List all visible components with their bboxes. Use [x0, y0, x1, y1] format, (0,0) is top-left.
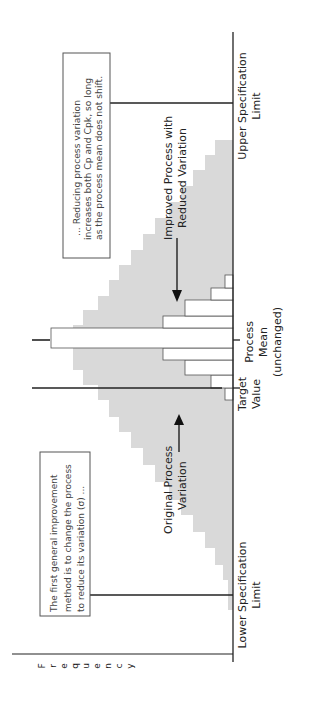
lower-note-line-1: The first general improvement	[49, 474, 59, 613]
histogram-bar	[215, 140, 233, 155]
frequency-letter: F	[37, 663, 47, 668]
frequency-letter: u	[81, 663, 91, 669]
histogram-bar	[215, 548, 233, 565]
frequency-letter: y	[125, 663, 135, 669]
frequency-letter: e	[92, 663, 102, 669]
lsl-label-line-1: Lower Specification	[236, 541, 249, 648]
lower-note-line-2: method is to change the process	[63, 464, 73, 612]
lower-note-line-3: to reduce its variation (σ) ...	[76, 486, 86, 612]
histogram-bar	[131, 432, 233, 448]
histogram-bar	[109, 400, 233, 417]
lsl-label-line-2: Limit	[250, 581, 263, 609]
histogram-bar	[143, 234, 233, 250]
histogram-bar	[223, 565, 233, 580]
histogram-bar	[131, 250, 233, 265]
upper-note-line-1: ... Reducing process variation	[71, 100, 82, 236]
histogram-bar	[193, 515, 233, 532]
frequency-axis-label: Frequency	[37, 663, 135, 669]
target-label-line-2: Value	[250, 379, 263, 409]
frequency-letter: r	[48, 664, 58, 668]
original-label-line-1: Original Process	[162, 445, 175, 534]
target-label-line-1: Target	[236, 376, 249, 412]
histogram-bar	[163, 348, 233, 360]
improved-label-line-1: Improved Process with	[162, 116, 175, 240]
histogram-bar	[205, 532, 233, 548]
upper-note-line-3: as the process mean does not shift.	[93, 76, 104, 240]
histogram-bar	[51, 328, 233, 348]
original-label-line-2: Variation	[176, 461, 189, 510]
frequency-letter: e	[59, 663, 69, 669]
usl-label-line-2: Limit	[250, 92, 263, 120]
improved-label-line-2: Reduced Variation	[176, 128, 189, 228]
histogram-bar	[225, 388, 233, 400]
histogram-bar	[185, 300, 233, 316]
histogram-bar	[163, 316, 233, 328]
process-variation-chart: ... Reducing process variation increases…	[0, 0, 309, 715]
histogram-bar	[185, 360, 233, 375]
frequency-letter: c	[114, 663, 124, 668]
histogram-bar	[205, 155, 233, 170]
histogram-bar	[225, 275, 233, 288]
mean-label-line-3: (unchanged)	[271, 307, 284, 377]
mean-label-line-1: Process	[243, 321, 256, 363]
usl-label-line-1: Upper Specification	[236, 52, 249, 159]
upper-note-line-2: increases both Cp and Cpk, so long	[82, 78, 93, 240]
frequency-letter: q	[70, 663, 80, 669]
histogram-bar	[211, 288, 233, 300]
mean-label-line-2: Mean	[257, 327, 270, 357]
histogram-bar	[119, 265, 233, 280]
histogram-bar	[193, 170, 233, 186]
frequency-letter: n	[103, 663, 113, 669]
histogram-bar	[211, 375, 233, 388]
